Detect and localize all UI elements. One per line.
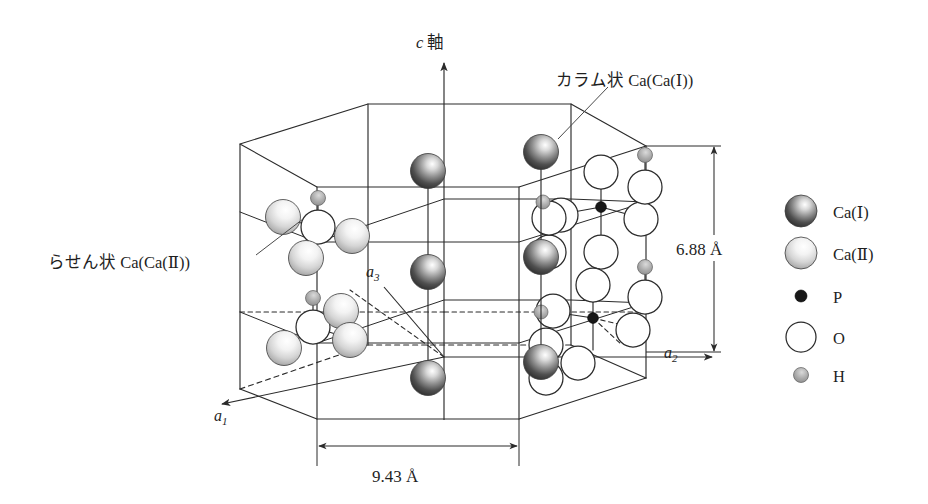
hydrogen-atom	[536, 195, 550, 209]
ca2-atom	[335, 219, 370, 254]
ca2-atom	[267, 331, 302, 366]
legend-marker-o	[786, 322, 816, 352]
ca2-atom	[266, 200, 301, 235]
legend-label-o: O	[833, 329, 845, 348]
unit-cell-diagram: 6.88 Å 9.43 Å c 軸 カラム状 Ca(Ca(Ⅰ)) らせん状 Ca…	[0, 0, 928, 504]
legend-label-h: H	[833, 367, 845, 386]
legend-label-ca2: Ca(Ⅱ)	[833, 245, 874, 264]
oxygen-atom	[628, 280, 662, 314]
ca1-atom	[411, 154, 446, 189]
legend-marker-ca1	[785, 195, 817, 227]
legend-marker-p	[795, 290, 807, 302]
dimension-width-label: 9.43 Å	[372, 467, 419, 486]
oxygen-atom	[576, 268, 610, 302]
hydrogen-atom	[638, 148, 653, 163]
oxygen-atom	[584, 235, 618, 269]
ca1-atom	[524, 345, 559, 380]
c-axis-label: c 軸	[416, 33, 444, 52]
phosphorus-atom	[596, 202, 607, 213]
ca1-atom	[411, 361, 446, 396]
ca1-atom	[411, 255, 446, 290]
oxygen-atom	[628, 170, 662, 204]
legend-label-p: P	[833, 288, 842, 307]
hydrogen-atom	[306, 291, 321, 306]
hydrogen-atom	[638, 260, 653, 275]
ca1-atom	[524, 240, 559, 275]
hydrogen-atom	[311, 191, 326, 206]
ca2-atom	[289, 241, 324, 276]
legend-marker-ca2	[785, 237, 817, 269]
helical-ca-label: らせん状 Ca(Ca(Ⅱ))	[48, 253, 190, 272]
crystal-structure-figure: 6.88 Å 9.43 Å c 軸 カラム状 Ca(Ca(Ⅰ)) らせん状 Ca…	[0, 0, 928, 504]
columnar-ca-label: カラム状 Ca(Ca(Ⅰ))	[556, 71, 693, 90]
ca2-atom	[333, 323, 368, 358]
oxygen-atom	[301, 210, 335, 244]
ca1-atom	[524, 135, 559, 170]
legend-marker-h	[794, 368, 809, 383]
oxygen-atom	[561, 346, 595, 380]
legend-label-ca1: Ca(Ⅰ)	[833, 203, 869, 222]
oxygen-atom	[624, 202, 658, 236]
phosphorus-atom	[588, 313, 599, 324]
dimension-height-label: 6.88 Å	[676, 240, 723, 259]
oxygen-atom	[616, 313, 650, 347]
oxygen-atom	[584, 155, 618, 189]
